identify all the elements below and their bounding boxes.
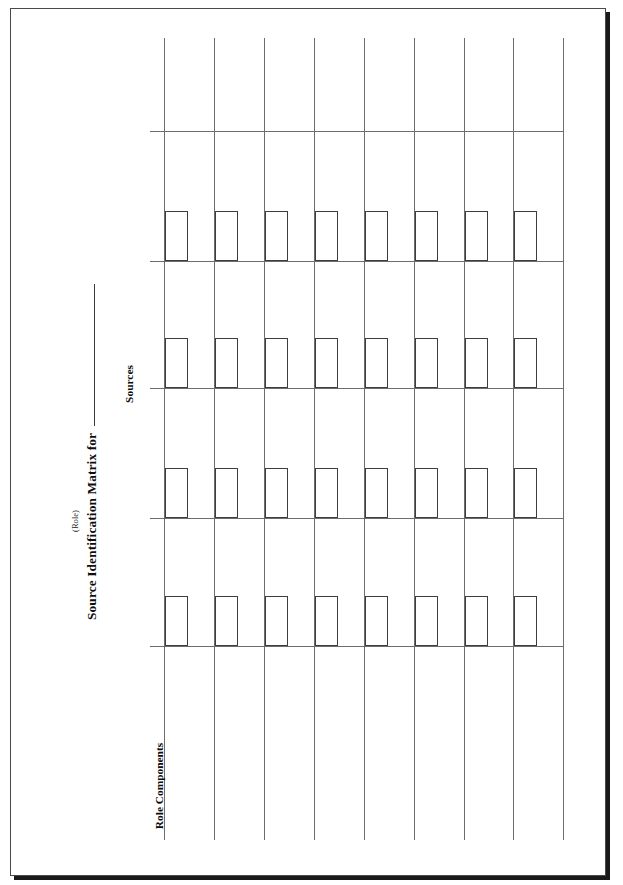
- role-caption: (Role): [64, 476, 86, 566]
- matrix-cell-checkbox[interactable]: [514, 468, 537, 518]
- matrix-cell-checkbox[interactable]: [265, 468, 288, 518]
- matrix-cell-checkbox[interactable]: [365, 468, 388, 518]
- matrix-cell-checkbox[interactable]: [465, 468, 488, 518]
- matrix-cell-checkbox[interactable]: [265, 596, 288, 646]
- matrix-cell-checkbox[interactable]: [315, 338, 338, 388]
- matrix-cell-checkbox[interactable]: [465, 596, 488, 646]
- matrix-cell-checkbox[interactable]: [365, 338, 388, 388]
- matrix-cell-checkbox[interactable]: [165, 596, 188, 646]
- matrix-cell-checkbox[interactable]: [215, 468, 238, 518]
- matrix-cell-checkbox[interactable]: [165, 338, 188, 388]
- matrix-cell-checkbox[interactable]: [315, 468, 338, 518]
- axis-label-sources: Sources: [120, 339, 138, 429]
- matrix-cell-checkbox[interactable]: [265, 338, 288, 388]
- matrix-cell-checkbox[interactable]: [514, 338, 537, 388]
- matrix-cell-checkbox[interactable]: [365, 211, 388, 261]
- page-title: Source Identification Matrix for: [58, 280, 98, 620]
- axis-label-role-components: Role Components: [150, 721, 168, 851]
- matrix-cell-checkbox[interactable]: [165, 468, 188, 518]
- matrix-cell-checkbox[interactable]: [465, 211, 488, 261]
- role-fill-in-rule[interactable]: [94, 284, 95, 426]
- worksheet-page: [10, 8, 606, 876]
- matrix-cell-checkbox[interactable]: [514, 211, 537, 261]
- matrix-cell-checkbox[interactable]: [365, 596, 388, 646]
- matrix-cell-checkbox[interactable]: [315, 596, 338, 646]
- matrix-cell-checkbox[interactable]: [215, 596, 238, 646]
- page-title-text: Source Identification Matrix for: [85, 433, 98, 620]
- matrix-cell-checkbox[interactable]: [165, 211, 188, 261]
- matrix-cell-checkbox[interactable]: [465, 338, 488, 388]
- matrix-cell-checkbox[interactable]: [415, 211, 438, 261]
- screenshot-root: Source Identification Matrix for (Role) …: [0, 0, 623, 885]
- matrix-cell-checkbox[interactable]: [415, 338, 438, 388]
- matrix-cell-checkbox[interactable]: [215, 211, 238, 261]
- matrix-cell-checkbox[interactable]: [514, 596, 537, 646]
- matrix-cell-checkbox[interactable]: [215, 338, 238, 388]
- matrix-cell-checkbox[interactable]: [265, 211, 288, 261]
- matrix-cell-checkbox[interactable]: [315, 211, 338, 261]
- matrix-cell-checkbox[interactable]: [415, 596, 438, 646]
- matrix-cell-checkbox[interactable]: [415, 468, 438, 518]
